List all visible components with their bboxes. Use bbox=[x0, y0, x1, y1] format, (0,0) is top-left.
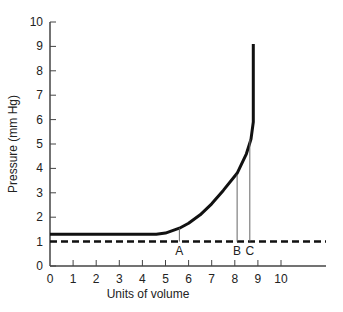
y-axis-title: Pressure (mm Hg) bbox=[6, 95, 20, 193]
x-tick-label: 9 bbox=[255, 272, 262, 286]
x-axis-title: Units of volume bbox=[107, 287, 190, 301]
y-tick-label: 4 bbox=[36, 161, 43, 175]
x-tick-label: 10 bbox=[274, 272, 288, 286]
x-tick-label: 3 bbox=[116, 272, 123, 286]
x-tick-label: 4 bbox=[139, 272, 146, 286]
x-tick-label: 1 bbox=[70, 272, 77, 286]
x-tick-label: 2 bbox=[93, 272, 100, 286]
x-tick-label: 6 bbox=[185, 272, 192, 286]
point-label-c: C bbox=[245, 244, 254, 258]
series bbox=[50, 44, 326, 242]
y-tick-label: 8 bbox=[36, 64, 43, 78]
y-tick-label: 0 bbox=[36, 259, 43, 273]
y-tick-label: 2 bbox=[36, 210, 43, 224]
x-tick-label: 5 bbox=[162, 272, 169, 286]
x-tick-label: 8 bbox=[231, 272, 238, 286]
point-label-b: B bbox=[233, 244, 241, 258]
x-ticks: 012345678910 bbox=[47, 260, 288, 286]
point-label-a: A bbox=[175, 244, 183, 258]
y-tick-label: 3 bbox=[36, 186, 43, 200]
y-tick-label: 10 bbox=[30, 15, 44, 29]
y-tick-label: 5 bbox=[36, 137, 43, 151]
axes bbox=[50, 22, 326, 266]
y-tick-label: 7 bbox=[36, 88, 43, 102]
y-tick-label: 6 bbox=[36, 113, 43, 127]
y-tick-label: 1 bbox=[36, 235, 43, 249]
x-tick-label: 7 bbox=[208, 272, 215, 286]
y-tick-label: 9 bbox=[36, 39, 43, 53]
x-tick-label: 0 bbox=[47, 272, 54, 286]
pressure-curve bbox=[50, 44, 253, 234]
pressure-volume-chart: 012345678910 012345678910 ABC Units of v… bbox=[0, 0, 343, 312]
